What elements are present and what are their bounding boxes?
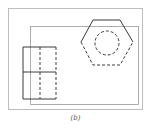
front-view-block	[23, 47, 56, 99]
hidden-circle	[95, 31, 119, 55]
figure-caption: (b)	[0, 114, 151, 122]
inner-sheet	[31, 27, 139, 105]
